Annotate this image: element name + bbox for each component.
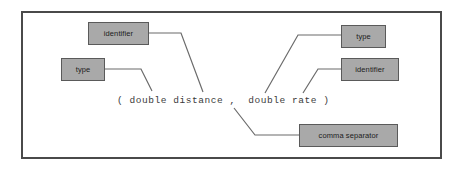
connector-comma-separator — [234, 108, 299, 135]
node-comma-separator: comma separator — [299, 124, 398, 147]
connector-type-left — [105, 69, 152, 91]
node-identifier-right-label: identifier — [355, 66, 384, 74]
node-type-right: type — [341, 25, 386, 48]
node-comma-separator-label: comma separator — [319, 132, 379, 140]
node-identifier-left: identifier — [88, 22, 149, 45]
connector-identifier-left — [149, 33, 203, 92]
node-type-left-label: type — [76, 66, 91, 74]
node-identifier-right: identifier — [341, 58, 399, 81]
diagram-root: identifier type type identifier comma se… — [0, 0, 464, 172]
node-identifier-left-label: identifier — [104, 30, 133, 38]
node-type-left: type — [61, 58, 105, 81]
connector-type-right — [265, 35, 341, 93]
connector-identifier-right — [303, 69, 341, 93]
node-type-right-label: type — [356, 33, 371, 41]
code-parameter-list: ( double distance , double rate ) — [117, 94, 330, 107]
